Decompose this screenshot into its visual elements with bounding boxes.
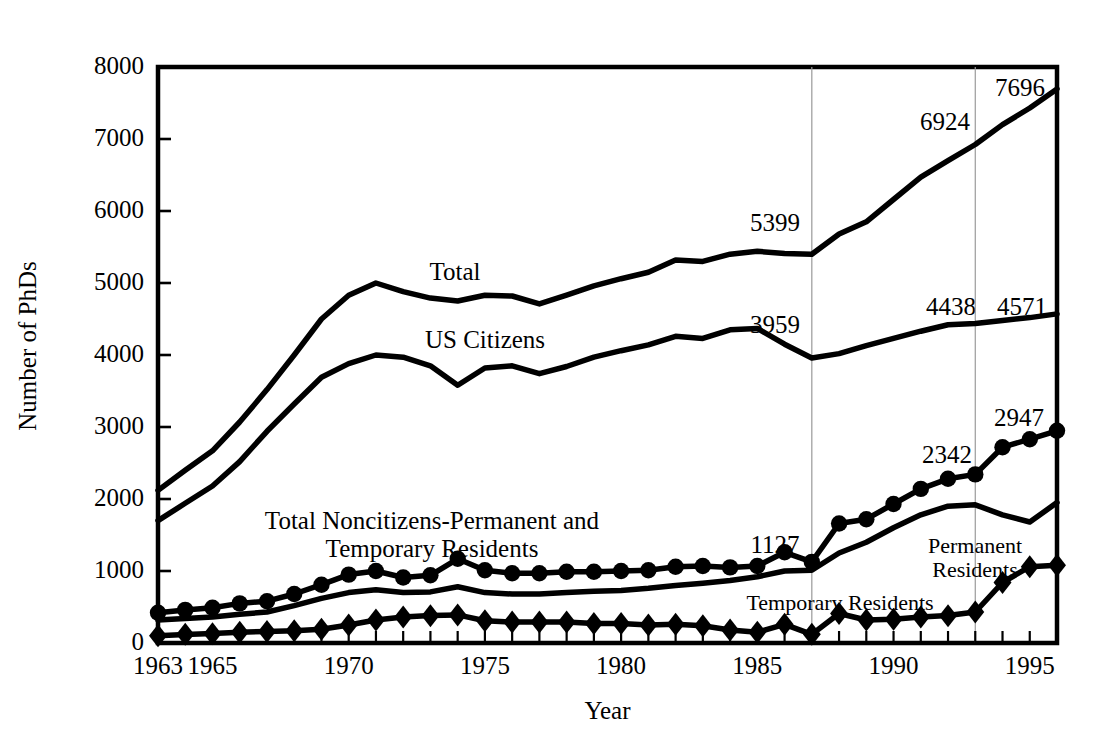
- marker-circle-1972: [395, 569, 411, 585]
- marker-circle-1975: [477, 562, 493, 578]
- marker-circle-1989: [858, 511, 874, 527]
- marker-diamond-1983: [694, 614, 712, 637]
- marker-diamond-1966: [231, 621, 249, 644]
- marker-circle-1979: [586, 564, 602, 580]
- marker-circle-1978: [558, 564, 574, 580]
- marker-diamond-1973: [421, 604, 439, 627]
- series-label-permanent-residents: Permanent Residents: [928, 534, 1022, 582]
- marker-diamond-1984: [721, 619, 739, 642]
- marker-diamond-1977: [530, 611, 548, 634]
- marker-diamond-1995: [1021, 555, 1039, 578]
- marker-circle-1969: [313, 577, 329, 593]
- marker-circle-1976: [504, 565, 520, 581]
- marker-diamond-1970: [340, 614, 358, 637]
- marker-diamond-1976: [503, 611, 521, 634]
- marker-circle-1990: [885, 496, 901, 512]
- marker-circle-1994: [994, 439, 1010, 455]
- marker-diamond-1996: [1048, 554, 1066, 577]
- marker-circle-1993: [967, 466, 983, 482]
- marker-circle-1980: [613, 563, 629, 579]
- marker-circle-1981: [640, 562, 656, 578]
- marker-circle-1991: [913, 481, 929, 497]
- marker-circle-1985: [749, 558, 765, 574]
- series-label-total: Total: [429, 258, 480, 286]
- marker-circle-1996: [1049, 423, 1065, 439]
- marker-diamond-1968: [285, 619, 303, 642]
- marker-diamond-1974: [449, 603, 467, 626]
- marker-diamond-1975: [476, 609, 494, 632]
- series-label-temporary-residents: Temporary Residents: [746, 591, 933, 615]
- marker-diamond-1972: [394, 606, 412, 629]
- marker-circle-1970: [341, 566, 357, 582]
- series-label-noncitizens-line1: Total Noncitizens-Permanent and: [265, 507, 599, 535]
- marker-diamond-1986: [776, 613, 794, 636]
- series-line-total: [158, 89, 1057, 491]
- marker-circle-1988: [831, 515, 847, 531]
- marker-diamond-1981: [639, 614, 657, 637]
- marker-circle-1967: [259, 593, 275, 609]
- marker-diamond-1979: [585, 612, 603, 635]
- marker-circle-1983: [695, 558, 711, 574]
- marker-circle-1995: [1022, 431, 1038, 447]
- marker-circle-1977: [531, 565, 547, 581]
- series-label-noncitizens-line2: Temporary Residents: [265, 534, 599, 562]
- marker-diamond-1971: [367, 608, 385, 631]
- plot-area: [0, 0, 1099, 745]
- marker-circle-1984: [722, 559, 738, 575]
- marker-circle-1982: [667, 559, 683, 575]
- series-label-noncitizens: Total Noncitizens-Permanent and Temporar…: [265, 507, 599, 562]
- chart-figure: PhDs Awarded in Physics by Citizenship, …: [0, 0, 1099, 745]
- marker-circle-1968: [286, 586, 302, 602]
- marker-diamond-1992: [939, 604, 957, 627]
- marker-circle-1986: [776, 544, 792, 560]
- marker-circle-1966: [232, 595, 248, 611]
- series-label-permanent-line1: Permanent: [928, 534, 1022, 558]
- marker-diamond-1985: [748, 621, 766, 644]
- series-label-permanent-line2: Residents: [928, 558, 1022, 582]
- marker-circle-1971: [368, 563, 384, 579]
- marker-diamond-1967: [258, 620, 276, 643]
- marker-circle-1973: [422, 567, 438, 583]
- marker-diamond-1980: [612, 612, 630, 635]
- series-label-us-citizens: US Citizens: [425, 326, 545, 354]
- marker-diamond-1982: [667, 613, 685, 636]
- marker-diamond-1978: [558, 611, 576, 634]
- marker-diamond-1969: [312, 618, 330, 641]
- marker-circle-1965: [204, 600, 220, 616]
- series-total: [158, 89, 1057, 491]
- marker-circle-1992: [940, 471, 956, 487]
